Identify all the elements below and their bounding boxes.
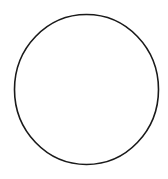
circle-shape [15, 15, 159, 165]
diagram-canvas [0, 0, 168, 179]
